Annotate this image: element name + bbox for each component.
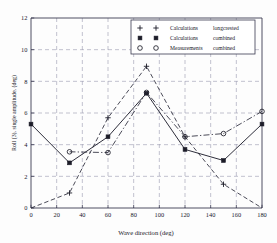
data-point-marker-filled-square [106,135,110,139]
y-axis-title: Roll (3), single amplitude, (deg) [11,75,18,151]
legend-label-qualifier: combined [213,45,235,51]
roll-amplitude-line-chart: 020406080100120140160180 024681012 Calcu… [0,0,277,243]
x-tick-label: 20 [53,211,59,218]
x-tick-label: 140 [206,211,216,218]
legend-label-name: Measurements [170,45,203,51]
y-tick-label: 8 [24,78,27,85]
x-tick-label: 160 [232,211,242,218]
chart-legend: CalculationslongcrestedCalculationscombi… [131,20,255,54]
data-point-marker-filled-square [68,161,72,165]
data-point-marker-filled-square [183,148,187,152]
x-tick-label: 80 [130,211,136,218]
legend-label-name: Calculations [170,35,198,41]
y-tick-label: 12 [21,14,27,21]
data-point-marker-filled-square [138,36,142,40]
x-axis-title: Wave direction (deg) [118,229,174,237]
legend-label-qualifier: combined [213,35,235,41]
x-tick-label: 40 [79,211,85,218]
data-point-marker-filled-square [154,36,158,40]
x-tick-label: 120 [180,211,190,218]
chart-figure: 020406080100120140160180 024681012 Calcu… [0,0,277,243]
x-tick-label: 180 [257,211,267,218]
data-point-marker-filled-square [29,122,33,126]
legend-label-qualifier: longcrested [213,25,239,31]
x-tick-label: 100 [155,211,165,218]
x-tick-label: 60 [105,211,111,218]
data-point-marker-filled-square [222,159,226,163]
y-tick-label: 6 [24,109,27,116]
y-tick-label: 2 [24,173,27,180]
y-tick-label: 0 [24,204,27,211]
legend-label-name: Calculations [170,25,198,31]
data-point-marker-filled-square [260,122,264,126]
x-tick-label: 0 [29,211,32,218]
y-tick-label: 10 [21,46,27,53]
